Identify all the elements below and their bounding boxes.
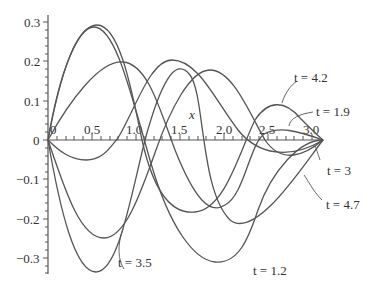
y-tick-label: 0.3: [24, 15, 40, 30]
annotation-t-1.2: t = 1.2: [253, 263, 287, 278]
x-tick-label: 2.0: [216, 122, 232, 137]
x-axis-label: x: [188, 107, 195, 122]
annotation-t-3: t = 3: [327, 163, 351, 178]
curve-t-3.5: [48, 70, 323, 238]
y-tick-label: 0.1: [24, 94, 40, 109]
curve-t-1.2: [48, 27, 323, 262]
annotation-t-1.9: t = 1.9: [316, 104, 350, 119]
curve-t-4.2: [48, 25, 323, 212]
annotation-t-3.5: t = 3.5: [118, 255, 152, 270]
y-tick-label: −0.1: [16, 172, 40, 187]
curve-t-3: [48, 60, 323, 160]
y-tick-label: −0.2: [16, 212, 40, 227]
y-ticks: [43, 22, 48, 273]
annotation-t-4.2: t = 4.2: [294, 70, 328, 85]
chart: 0 0.5 1.0 1.5 2.0 2.5 3.0 0.3 0.2 0.1 0 …: [0, 0, 372, 307]
x-tick-label: 0.5: [84, 122, 100, 137]
y-tick-label: 0.2: [24, 54, 40, 69]
y-tick-label: −0.3: [16, 251, 40, 266]
y-tick-label: 0: [33, 133, 40, 148]
x-tick-label: 1.5: [171, 122, 187, 137]
annotation-t-4.7: t = 4.7: [326, 197, 360, 212]
